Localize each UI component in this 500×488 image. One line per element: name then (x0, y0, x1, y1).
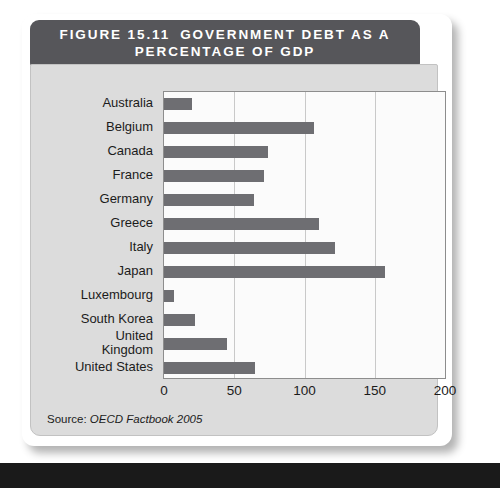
x-axis-tick-label: 200 (434, 383, 457, 398)
bar (164, 242, 335, 254)
figure-header: FIGURE 15.11GOVERNMENT DEBT AS A PERCENT… (30, 20, 420, 66)
figure-card: FIGURE 15.11GOVERNMENT DEBT AS A PERCENT… (22, 14, 452, 446)
y-axis-label: Greece (110, 216, 153, 230)
y-axis-label: Japan (118, 264, 153, 278)
bar-row (164, 266, 447, 278)
bar (164, 314, 195, 326)
bar (164, 266, 385, 278)
bar (164, 362, 255, 374)
bar-row (164, 98, 447, 110)
plot-area (163, 91, 446, 379)
bar (164, 290, 174, 302)
bar-row (164, 170, 447, 182)
bar (164, 194, 254, 206)
figure-body: AustraliaBelgiumCanadaFranceGermanyGreec… (30, 64, 438, 436)
x-axis-tick-label: 100 (293, 383, 316, 398)
bar-row (164, 218, 447, 230)
x-axis-tick-label: 50 (227, 383, 242, 398)
y-axis-label: Luxembourg (81, 288, 153, 302)
bar (164, 170, 264, 182)
bar-series (164, 92, 445, 378)
bar (164, 218, 319, 230)
source-label: Source: (47, 413, 87, 425)
bar-row (164, 290, 447, 302)
x-axis-tick-labels: 050100150200 (163, 383, 446, 403)
figure-header-line-1: FIGURE 15.11GOVERNMENT DEBT AS A (30, 26, 420, 43)
source-note: Source: OECD Factbook 2005 (47, 413, 202, 425)
bar-row (164, 338, 447, 350)
y-axis-label: Canada (107, 144, 153, 158)
figure-number-label: FIGURE 15.11 (60, 27, 171, 42)
bar-row (164, 362, 447, 374)
figure-title-line-1: GOVERNMENT DEBT AS A (180, 27, 390, 42)
source-value: OECD Factbook 2005 (90, 413, 203, 425)
bar (164, 122, 314, 134)
y-axis-label: Italy (129, 240, 153, 254)
bar-row (164, 242, 447, 254)
bar-row (164, 194, 447, 206)
bar-row (164, 314, 447, 326)
y-axis-label: United Kingdom (102, 329, 153, 357)
y-axis-labels: AustraliaBelgiumCanadaFranceGermanyGreec… (31, 91, 159, 379)
bar (164, 338, 227, 350)
bar (164, 98, 192, 110)
figure-page: FIGURE 15.11GOVERNMENT DEBT AS A PERCENT… (0, 0, 500, 488)
y-axis-label: Belgium (106, 120, 153, 134)
y-axis-label: United States (75, 360, 153, 374)
bar-chart: AustraliaBelgiumCanadaFranceGermanyGreec… (31, 65, 437, 435)
figure-title-line-2: PERCENTAGE OF GDP (30, 43, 420, 60)
x-axis-tick-label: 0 (160, 383, 168, 398)
bar (164, 146, 268, 158)
y-axis-label: Germany (100, 192, 153, 206)
y-axis-label: France (113, 168, 153, 182)
bar-row (164, 122, 447, 134)
bar-row (164, 146, 447, 158)
y-axis-label: Australia (102, 96, 153, 110)
page-bottom-edge (0, 463, 500, 488)
x-axis-tick-label: 150 (363, 383, 386, 398)
y-axis-label: South Korea (81, 312, 153, 326)
